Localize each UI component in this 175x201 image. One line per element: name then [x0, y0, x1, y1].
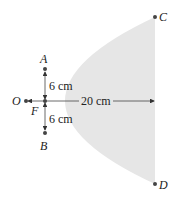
- parabolic-reflector-diagram: O F A B C D 6 cm 6 cm 20 cm: [0, 0, 175, 201]
- point-B: [43, 131, 47, 135]
- label-O: O: [12, 94, 21, 108]
- diagram-canvas: O F A B C D 6 cm 6 cm 20 cm: [0, 0, 175, 201]
- label-C: C: [159, 10, 168, 24]
- dim-label-axis: 20 cm: [81, 94, 111, 108]
- point-O: [24, 99, 28, 103]
- point-C: [153, 15, 157, 19]
- point-A: [43, 67, 47, 71]
- dim-label-lower: 6 cm: [49, 112, 73, 126]
- dim-label-upper: 6 cm: [49, 79, 73, 93]
- label-F: F: [30, 104, 39, 118]
- point-D: [153, 182, 157, 186]
- label-A: A: [39, 52, 48, 66]
- label-B: B: [40, 139, 48, 153]
- point-F: [43, 99, 47, 103]
- label-D: D: [158, 178, 168, 192]
